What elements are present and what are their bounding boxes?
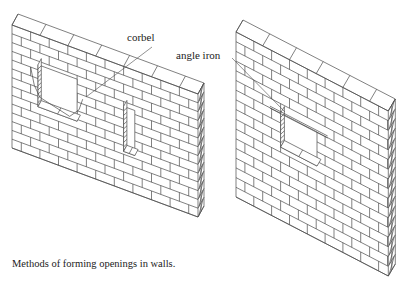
left-brick-wall-corbel bbox=[12, 14, 204, 217]
figure-caption: Methods of forming openings in walls. bbox=[12, 258, 175, 269]
wall-openings-diagram bbox=[0, 0, 405, 285]
angle-iron-leader-line bbox=[232, 58, 285, 112]
corbel-label: corbel bbox=[127, 32, 154, 43]
angle-iron-label: angle iron bbox=[176, 50, 220, 61]
corbel-step-edge bbox=[79, 99, 83, 110]
wall-top-coping bbox=[236, 20, 395, 111]
right-brick-wall-angle-iron bbox=[236, 20, 395, 276]
